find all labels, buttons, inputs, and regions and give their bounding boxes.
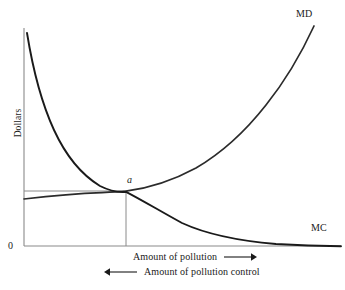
x-axis-caption-pollution: Amount of pollution <box>133 251 258 262</box>
left-arrow-icon <box>103 267 137 277</box>
x-axis-caption-control: Amount of pollution control <box>103 266 260 277</box>
equilibrium-point-label: a <box>127 174 132 185</box>
x-axis-secondary-label-text: Amount of pollution control <box>144 266 260 277</box>
md-curve-label: MD <box>296 8 313 19</box>
y-axis-label: Dollars <box>13 93 23 153</box>
chart-figure: Dollars 0 MD MC a Amount of pollution Am… <box>0 0 345 290</box>
x-axis-label-text: Amount of pollution <box>133 251 217 262</box>
origin-tick-label: 0 <box>8 240 13 251</box>
md-curve <box>24 26 314 199</box>
chart-plot-area <box>0 0 345 290</box>
mc-curve-label: MC <box>311 222 327 233</box>
right-arrow-icon <box>224 252 258 262</box>
